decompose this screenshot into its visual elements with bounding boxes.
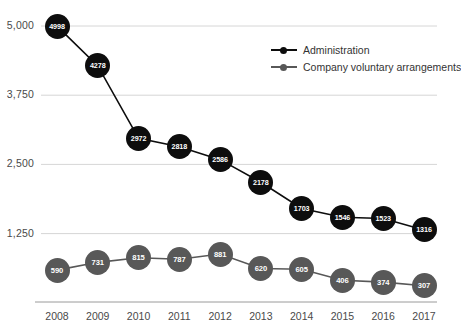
data-point-marker: 307 xyxy=(412,273,437,298)
data-point-marker: 374 xyxy=(371,270,396,295)
data-point-marker: 1316 xyxy=(412,217,437,242)
y-axis-tick-label: 3,750 xyxy=(0,88,34,100)
data-point-marker: 731 xyxy=(85,250,110,275)
data-point-marker: 2972 xyxy=(126,126,151,151)
data-point-marker: 590 xyxy=(45,258,70,283)
legend-marker-cva xyxy=(271,61,297,72)
data-point-marker: 2818 xyxy=(167,134,192,159)
data-point-marker: 1546 xyxy=(330,205,355,230)
x-axis-tick-label: 2012 xyxy=(198,310,242,322)
data-point-marker: 881 xyxy=(208,242,233,267)
x-axis-tick-label: 2016 xyxy=(361,310,405,322)
x-axis-tick-label: 2010 xyxy=(117,310,161,322)
data-point-marker: 2586 xyxy=(208,147,233,172)
y-axis-tick-label: 5,000 xyxy=(0,19,34,31)
x-axis-tick-label: 2015 xyxy=(320,310,364,322)
legend-label-administration: Administration xyxy=(303,44,370,56)
x-axis-tick-label: 2009 xyxy=(76,310,120,322)
x-axis-tick-label: 2011 xyxy=(157,310,201,322)
data-point-marker: 605 xyxy=(289,257,314,282)
chart-legend: Administration Company voluntary arrange… xyxy=(271,42,461,76)
data-point-marker: 787 xyxy=(167,247,192,272)
legend-item-cva: Company voluntary arrangements xyxy=(271,59,461,74)
x-axis-tick-label: 2017 xyxy=(402,310,446,322)
legend-label-cva: Company voluntary arrangements xyxy=(303,61,461,73)
data-point-marker: 2178 xyxy=(248,170,273,195)
data-point-marker: 1523 xyxy=(371,206,396,231)
series-line xyxy=(57,254,424,286)
legend-item-administration: Administration xyxy=(271,42,461,57)
x-axis-tick-label: 2008 xyxy=(35,310,79,322)
x-axis-tick-label: 2013 xyxy=(239,310,283,322)
y-axis-tick-label: 1,250 xyxy=(0,227,34,239)
data-point-marker: 4998 xyxy=(45,14,70,39)
data-point-marker: 406 xyxy=(330,268,355,293)
data-point-marker: 1703 xyxy=(289,196,314,221)
x-axis-tick-label: 2014 xyxy=(280,310,324,322)
y-axis-tick-label: 2,500 xyxy=(0,157,34,169)
legend-marker-administration xyxy=(271,44,297,55)
